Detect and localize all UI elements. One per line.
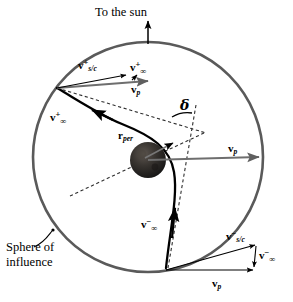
to-the-sun-label: To the sun [95, 6, 147, 19]
v-inf-minus-tri-inf: ∞ [269, 255, 275, 264]
v-infinity-minus-trajectory-label: v−∞ [141, 219, 157, 230]
v-inf-plus-top-inf: ∞ [140, 67, 146, 76]
v-p-middle-sub: p [234, 147, 238, 156]
v-sc-plus-label: v+s/c [78, 60, 97, 71]
v-p-bottom-sub: p [218, 282, 222, 291]
v-sc-minus-label: v−s/c [226, 231, 245, 242]
v-sc-minus-sub: s/c [236, 235, 244, 244]
v-inf-minus-traj-inf: ∞ [151, 224, 157, 233]
sphere-of-influence-label: Sphere of influence [6, 240, 54, 270]
v-infinity-minus-triangle-arrow [254, 246, 256, 267]
gravity-assist-diagram: To the sun Sphere of influence δ rper v+… [0, 0, 293, 302]
v-p-middle-label: vp [228, 143, 237, 154]
v-inf-plus-traj-inf: ∞ [60, 117, 66, 126]
v-sc-plus-sub: s/c [88, 64, 96, 73]
reference-line-dashed [168, 105, 196, 268]
r-periapsis-label: rper [118, 130, 133, 141]
v-p-bottom-label: vp [212, 278, 221, 289]
v-p-top-label: vp [131, 84, 140, 95]
v-infinity-plus-trajectory-arrow [92, 110, 113, 120]
v-infinity-plus-triangle-label: v+∞ [130, 62, 146, 73]
deflection-angle-label: δ [180, 98, 189, 112]
v-p-top-sub: p [137, 88, 141, 97]
hyperbolic-trajectory [57, 88, 175, 268]
v-sc-minus-arrow [166, 245, 255, 270]
v-infinity-plus-trajectory-label: v+∞ [50, 112, 66, 123]
deflection-angle-arc [172, 113, 192, 117]
sphere-label-leader-dot [51, 228, 54, 231]
r-periapsis-sub: per [123, 134, 133, 143]
planet-surface-mark-b [152, 164, 159, 171]
v-infinity-plus-triangle-arrow [132, 75, 137, 80]
v-infinity-minus-triangle-label: v−∞ [259, 250, 275, 261]
